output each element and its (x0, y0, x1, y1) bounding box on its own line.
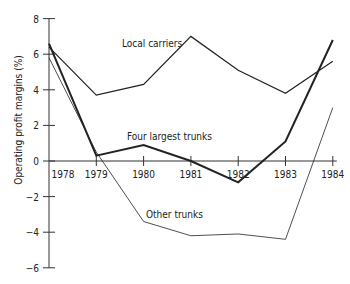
y-tick-label: 0 (33, 156, 39, 167)
y-tick-label: 6 (33, 49, 39, 60)
series-label: Other trunks (146, 209, 203, 220)
line-chart: −6−4−202468 1978197919801981198219831984… (0, 0, 350, 284)
y-tick-label: −4 (26, 227, 40, 238)
y-axis: −6−4−202468 (26, 14, 55, 274)
y-tick-label: 2 (33, 120, 39, 131)
x-axis: 1978197919801981198219831984 (49, 156, 345, 180)
y-tick-label: 8 (33, 14, 39, 25)
series-label: Local carriers (122, 38, 183, 49)
y-tick-label: 4 (33, 85, 39, 96)
series-label: Four largest trunks (127, 131, 212, 142)
x-tick-label: 1981 (179, 169, 202, 180)
x-tick-label: 1980 (132, 169, 155, 180)
x-tick-label: 1983 (274, 169, 297, 180)
x-tick-label: 1978 (52, 169, 75, 180)
y-tick-label: −2 (26, 192, 39, 203)
y-axis-title: Operating profit margins (%) (13, 55, 24, 184)
y-tick-label: −6 (26, 263, 40, 274)
x-tick-label: 1984 (321, 169, 344, 180)
x-tick-label: 1979 (85, 169, 108, 180)
series-labels: Local carriersFour largest trunksOther t… (122, 38, 212, 220)
series-line-local-carriers (49, 36, 333, 95)
